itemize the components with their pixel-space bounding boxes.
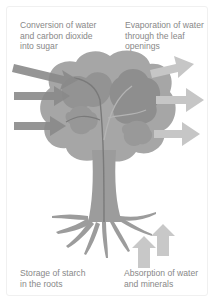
- label-starch-storage: Storage of starch in the roots: [20, 268, 85, 289]
- canopy: [40, 50, 175, 161]
- outflow-arrows: [150, 56, 204, 146]
- label-photosynthesis: Conversion of water and carbon dioxide i…: [20, 20, 96, 52]
- label-transpiration: Evaporation of water through the leaf op…: [125, 20, 204, 52]
- label-absorption: Absorption of water and minerals: [124, 268, 198, 289]
